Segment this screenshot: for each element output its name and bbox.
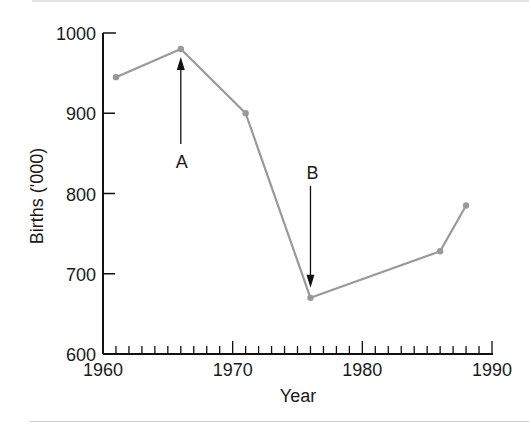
data-point [307,295,313,301]
y-tick-label: 900 [66,104,96,124]
data-point [463,202,469,208]
data-point [178,46,184,52]
y-tick-label: 700 [66,265,96,285]
y-axis-ticks: 6007008009001000 [56,24,115,365]
x-tick-label: 1970 [213,360,253,380]
y-tick-label: 800 [66,185,96,205]
y-tick-label: 1000 [56,24,96,44]
data-series [113,46,470,301]
data-point [437,248,443,254]
series-line [116,49,466,298]
annotation-label-a: A [176,152,188,172]
annotations: AB [176,57,319,288]
x-axis-ticks: 1960197019801990 [83,341,512,380]
arrow-up-icon [177,57,185,70]
bottom-rule [30,421,529,422]
data-point [113,74,119,80]
x-tick-label: 1980 [342,360,382,380]
x-axis-title: Year [280,386,316,406]
data-point [242,110,248,116]
annotation-label-b: B [306,163,318,183]
x-tick-label: 1960 [83,360,123,380]
x-tick-label: 1990 [472,360,512,380]
axes [103,33,493,354]
line-chart: 6007008009001000 1960197019801990 AB Yea… [0,0,529,438]
arrow-down-icon [306,275,314,288]
y-axis-title: Births ('000) [27,148,47,244]
